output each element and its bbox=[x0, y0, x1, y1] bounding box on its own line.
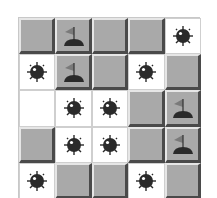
cell-flagged[interactable] bbox=[55, 18, 91, 54]
cell-flagged[interactable] bbox=[55, 54, 91, 90]
mine-icon bbox=[135, 170, 157, 192]
cell-covered[interactable] bbox=[19, 127, 55, 163]
cell-mine[interactable] bbox=[92, 90, 128, 126]
cell-mine[interactable] bbox=[92, 127, 128, 163]
cell-mine[interactable] bbox=[165, 18, 201, 54]
mine-icon bbox=[99, 134, 121, 156]
cell-mine[interactable] bbox=[55, 127, 91, 163]
cell-covered[interactable] bbox=[55, 163, 91, 198]
cell-mine[interactable] bbox=[55, 90, 91, 126]
cell-covered[interactable] bbox=[92, 54, 128, 90]
cell-flagged[interactable] bbox=[165, 90, 201, 126]
cell-covered[interactable] bbox=[92, 163, 128, 198]
mine-icon bbox=[135, 61, 157, 83]
flag-icon bbox=[61, 24, 85, 48]
minesweeper-board bbox=[18, 17, 200, 198]
mine-icon bbox=[99, 97, 121, 119]
cell-mine[interactable] bbox=[128, 54, 164, 90]
cell-covered[interactable] bbox=[128, 127, 164, 163]
cell-covered[interactable] bbox=[128, 18, 164, 54]
cell-covered[interactable] bbox=[165, 54, 201, 90]
mine-icon bbox=[172, 25, 194, 47]
cell-covered[interactable] bbox=[19, 18, 55, 54]
flag-icon bbox=[170, 132, 194, 156]
cell-mine[interactable] bbox=[19, 163, 55, 198]
cell-covered[interactable] bbox=[92, 18, 128, 54]
cell-mine[interactable] bbox=[19, 54, 55, 90]
cell-covered[interactable] bbox=[128, 90, 164, 126]
cell-covered[interactable] bbox=[165, 163, 201, 198]
flag-icon bbox=[170, 96, 194, 120]
mine-icon bbox=[63, 134, 85, 156]
mine-icon bbox=[26, 170, 48, 192]
cell-flagged[interactable] bbox=[165, 127, 201, 163]
flag-icon bbox=[61, 60, 85, 84]
mine-icon bbox=[26, 61, 48, 83]
cell-empty[interactable] bbox=[19, 90, 55, 126]
cell-mine[interactable] bbox=[128, 163, 164, 198]
mine-icon bbox=[63, 97, 85, 119]
